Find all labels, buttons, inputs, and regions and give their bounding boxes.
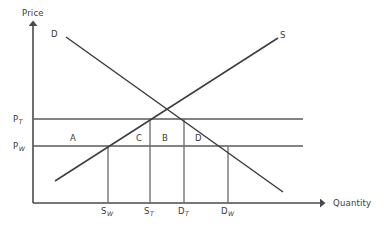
tick-label-supply-world-main: S: [101, 206, 107, 216]
tick-label-supply-tariff-subscript: T: [150, 210, 154, 217]
tick-label-supply-world: SW: [101, 207, 113, 216]
region-label-c: C: [136, 134, 142, 143]
figure-canvas: Price Quantity D S PT PW A C B D SW ST D…: [0, 0, 384, 233]
tick-label-demand-tariff: DT: [178, 207, 189, 216]
tick-label-demand-world-main: D: [221, 206, 228, 216]
region-label-b: B: [162, 134, 168, 143]
tick-label-demand-world: DW: [221, 207, 234, 216]
demand-curve: [66, 37, 283, 192]
tick-label-demand-tariff-subscript: T: [185, 210, 189, 217]
x-axis-title: Quantity: [333, 199, 371, 208]
tick-label-supply-world-subscript: W: [107, 210, 113, 217]
tick-label-supply-tariff-main: S: [144, 206, 150, 216]
price-label-world: PW: [13, 142, 25, 151]
price-label-tariff: PT: [13, 115, 22, 124]
tick-label-supply-tariff: ST: [144, 207, 154, 216]
supply-curve-label: S: [280, 31, 286, 40]
region-label-a: A: [70, 134, 76, 143]
price-label-world-main: P: [13, 141, 18, 151]
tick-label-demand-world-subscript: W: [228, 210, 234, 217]
y-axis-title: Price: [22, 9, 44, 18]
price-label-tariff-subscript: T: [19, 118, 23, 125]
tick-label-demand-tariff-main: D: [178, 206, 185, 216]
demand-curve-label: D: [51, 30, 58, 39]
price-label-world-subscript: W: [19, 145, 25, 152]
supply-curve: [55, 38, 278, 181]
region-label-d: D: [195, 134, 202, 143]
price-label-tariff-main: P: [13, 114, 18, 124]
